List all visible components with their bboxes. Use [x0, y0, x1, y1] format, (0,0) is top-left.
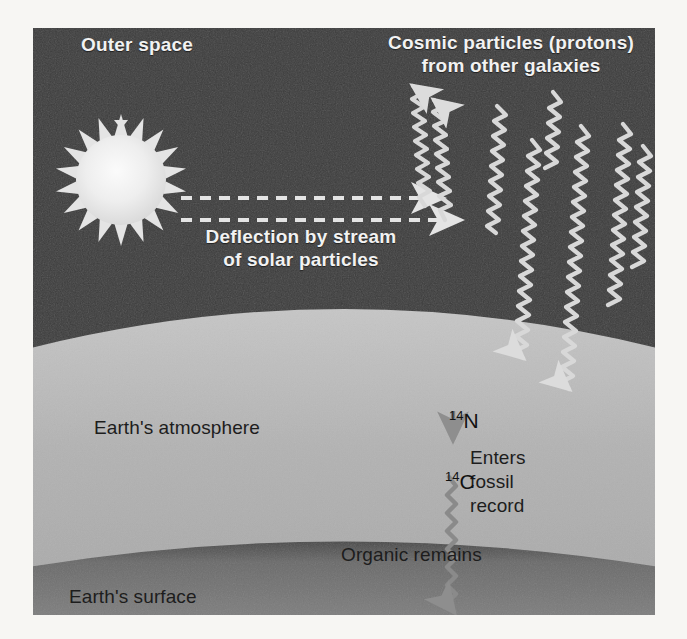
nitrogen-symbol: N [463, 409, 478, 432]
carbon-mass-number: 14 [445, 469, 459, 484]
label-carbon-14: 14C [410, 446, 475, 518]
diagram-canvas [33, 28, 655, 615]
figure-root: Outer space Cosmic particles (protons) f… [0, 0, 687, 639]
diagram-scene: Outer space Cosmic particles (protons) f… [33, 28, 655, 615]
nitrogen-mass-number: 14 [449, 408, 463, 423]
carbon-symbol: C [459, 470, 474, 493]
